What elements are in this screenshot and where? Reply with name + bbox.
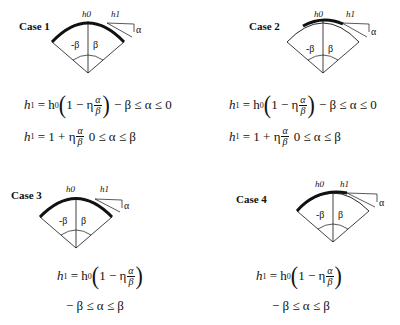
case-3-equation: h1 = h0(1 − ηαβ) — [57, 265, 143, 287]
alpha-label: α — [379, 197, 385, 208]
case-3-condition: − β ≤ α ≤ β — [66, 298, 124, 314]
case-4-label: Case 4 — [236, 193, 267, 205]
case-3-diagram: h0 h1 α -β β — [30, 172, 160, 252]
alpha-label: α — [371, 26, 377, 37]
case-1-equation-1: h1 = h0(1 − ηαβ)− β ≤ α ≤ 0 — [24, 94, 172, 116]
condition: 0 ≤ α ≤ β — [89, 129, 136, 145]
beta-label: β — [93, 39, 98, 50]
h1-label: h1 — [100, 184, 109, 194]
neg-beta-label: -β — [316, 209, 324, 220]
h0-label: h0 — [315, 179, 325, 189]
case-1-equation-2: h1 = 1 + ηαβ0 ≤ α ≤ β — [24, 126, 136, 147]
h0-label: h0 — [82, 9, 92, 19]
beta-label: β — [328, 43, 333, 54]
neg-beta-label: -β — [306, 43, 314, 54]
case-2-diagram: h0 h1 α -β β — [275, 0, 400, 80]
h1-label: h1 — [340, 179, 349, 189]
case-2-equation-2: h1 = 1 + ηαβ0 ≤ α ≤ β — [229, 126, 341, 147]
h1-label: h1 — [346, 9, 355, 19]
condition: 0 ≤ α ≤ β — [294, 129, 341, 145]
condition: − β ≤ α ≤ 0 — [319, 97, 377, 113]
h1-label: h1 — [111, 9, 120, 19]
case-4-diagram: h0 h1 α -β β — [287, 170, 400, 250]
neg-beta-label: -β — [59, 215, 67, 226]
h0-label: h0 — [314, 9, 324, 19]
beta-label: β — [81, 215, 86, 226]
neg-beta-label: -β — [71, 39, 79, 50]
case-4-condition: − β ≤ α ≤ β — [272, 298, 330, 314]
case-4-equation: h1 = h0(1 − ηαβ) — [256, 265, 342, 287]
h0-label: h0 — [66, 184, 76, 194]
case-2-equation-1: h1 = h0(1 − ηαβ)− β ≤ α ≤ 0 — [229, 94, 377, 116]
beta-label: β — [338, 209, 343, 220]
case-1-diagram: h0 h1 α -β β — [40, 0, 170, 80]
alpha-label: α — [124, 200, 130, 211]
condition: − β ≤ α ≤ 0 — [114, 97, 172, 113]
alpha-label: α — [136, 24, 142, 35]
